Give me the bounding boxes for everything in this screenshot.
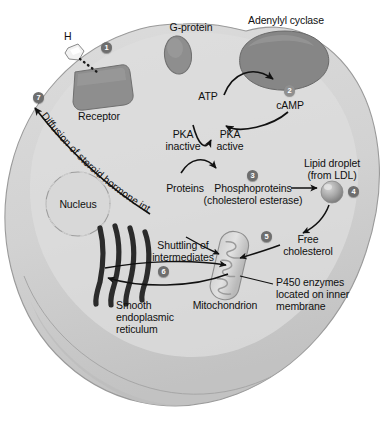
mitochondrion-label: Mitochondrion <box>193 300 258 312</box>
step-badge-2: 2 <box>284 85 295 96</box>
phosphoproteins-label-line2: (cholesterol esterase) <box>204 195 303 207</box>
p450-label-line1: P450 enzymes <box>276 277 344 289</box>
p450-label-line2: located on inner <box>276 289 349 301</box>
atp-label: ATP <box>198 91 217 103</box>
nucleus-label: Nucleus <box>59 199 96 211</box>
steroidogenesis-diagram: Diffusion of steroid hormone into blood … <box>0 0 387 441</box>
adenylyl-cyclase-label: Adenylyl cyclase <box>248 15 324 27</box>
step-badge-7: 7 <box>33 92 44 103</box>
step-badge-3: 3 <box>247 170 258 181</box>
proteins-label: Proteins <box>166 183 204 195</box>
camp-label: cAMP <box>276 100 304 112</box>
hormone-label: H <box>64 31 71 43</box>
pka-active-label-line1: PKA <box>220 129 241 141</box>
g-protein-label: G-protein <box>170 22 213 34</box>
pka-inactive-label-line2: inactive <box>166 141 201 153</box>
free-cholesterol-label-line2: cholesterol <box>283 246 333 258</box>
lipid-droplet-label-line1: Lipid droplet <box>304 158 360 170</box>
lipid-droplet-label-line2: (from LDL) <box>307 170 356 182</box>
lipid-droplet-shape <box>321 181 343 203</box>
smooth-er-label-line3: reticulum <box>116 324 158 336</box>
diagram-canvas: Diffusion of steroid hormone into blood <box>0 0 387 441</box>
pka-active-label-line2: active <box>217 141 244 153</box>
receptor-label: Receptor <box>78 111 120 123</box>
receptor-shape <box>73 65 133 110</box>
smooth-er-label-line1: Smooth <box>116 300 152 312</box>
step-badge-4: 4 <box>348 186 359 197</box>
adenylyl-cyclase-shape <box>240 31 329 90</box>
step-badge-5: 5 <box>261 231 272 242</box>
shuttling-label-line1: Shuttling of <box>157 240 208 252</box>
p450-label-line3: membrane <box>276 301 325 313</box>
step-badge-6: 6 <box>158 266 169 277</box>
phosphoproteins-label-line1: Phosphoproteins <box>214 183 291 195</box>
free-cholesterol-label-line1: Free <box>297 234 318 246</box>
shuttling-label-line2: intermediates <box>152 252 214 264</box>
pka-inactive-label-line1: PKA <box>173 129 194 141</box>
step-badge-1: 1 <box>101 42 112 53</box>
smooth-er-label-line2: endoplasmic <box>116 312 174 324</box>
